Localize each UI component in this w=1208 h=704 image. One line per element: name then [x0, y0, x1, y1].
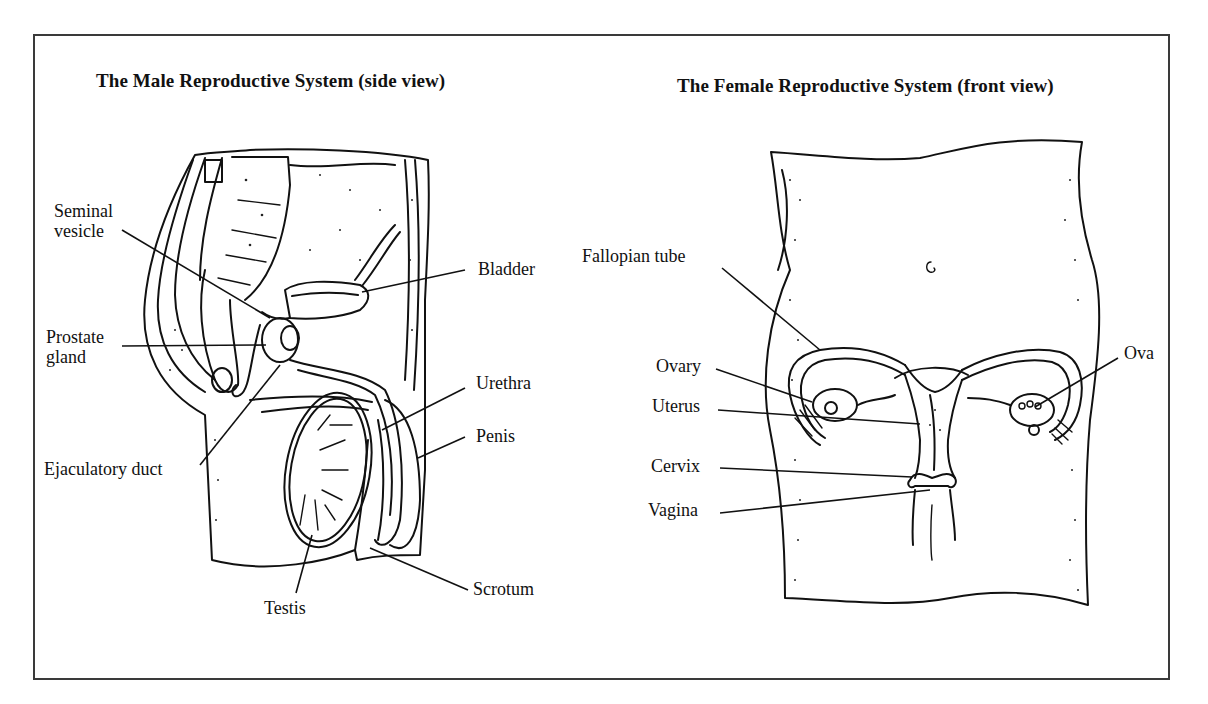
- label-penis: Penis: [476, 426, 515, 446]
- label-ovary: Ovary: [656, 356, 701, 376]
- label-scrotum: Scrotum: [473, 579, 534, 599]
- label-ejaculatory-duct: Ejaculatory duct: [44, 459, 162, 479]
- label-uterus: Uterus: [652, 396, 700, 416]
- female-anatomy-drawing: [716, 140, 1118, 605]
- label-bladder: Bladder: [478, 259, 535, 279]
- label-urethra: Urethra: [476, 373, 531, 393]
- diagram-artwork: [0, 0, 1208, 704]
- label-prostate-gland: Prostate gland: [46, 327, 104, 367]
- label-seminal-vesicle: Seminal vesicle: [54, 201, 113, 241]
- label-vagina: Vagina: [648, 500, 698, 520]
- label-cervix: Cervix: [651, 456, 700, 476]
- label-ova: Ova: [1124, 343, 1154, 363]
- label-fallopian-tube: Fallopian tube: [582, 246, 685, 266]
- label-testis: Testis: [264, 598, 306, 618]
- male-anatomy-drawing: [122, 149, 468, 593]
